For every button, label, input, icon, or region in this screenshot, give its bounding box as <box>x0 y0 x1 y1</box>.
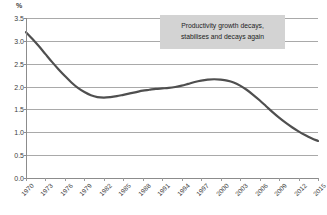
x-axis-tick-mark <box>104 178 105 181</box>
x-axis-tick-mark <box>162 178 163 181</box>
x-axis-tick-mark <box>279 178 280 181</box>
x-axis-tick-mark <box>221 178 222 181</box>
annotation-callout: Productivity growth decays, stabilises a… <box>160 15 285 49</box>
x-axis-tick-mark <box>182 178 183 181</box>
x-axis-tick-mark <box>318 178 319 181</box>
x-axis-tick-mark <box>84 178 85 181</box>
x-axis-tick-mark <box>65 178 66 181</box>
x-axis-tick-mark <box>260 178 261 181</box>
x-axis-tick-mark <box>299 178 300 181</box>
x-axis-tick-mark <box>201 178 202 181</box>
x-axis-tick-mark <box>45 178 46 181</box>
x-axis-tick-mark <box>143 178 144 181</box>
x-axis-tick-mark <box>26 178 27 181</box>
annotation-line-1: Productivity growth decays, <box>164 21 281 32</box>
annotation-line-2: stabilises and decays again <box>164 32 281 43</box>
x-axis-tick-mark <box>123 178 124 181</box>
x-axis-tick-mark <box>240 178 241 181</box>
